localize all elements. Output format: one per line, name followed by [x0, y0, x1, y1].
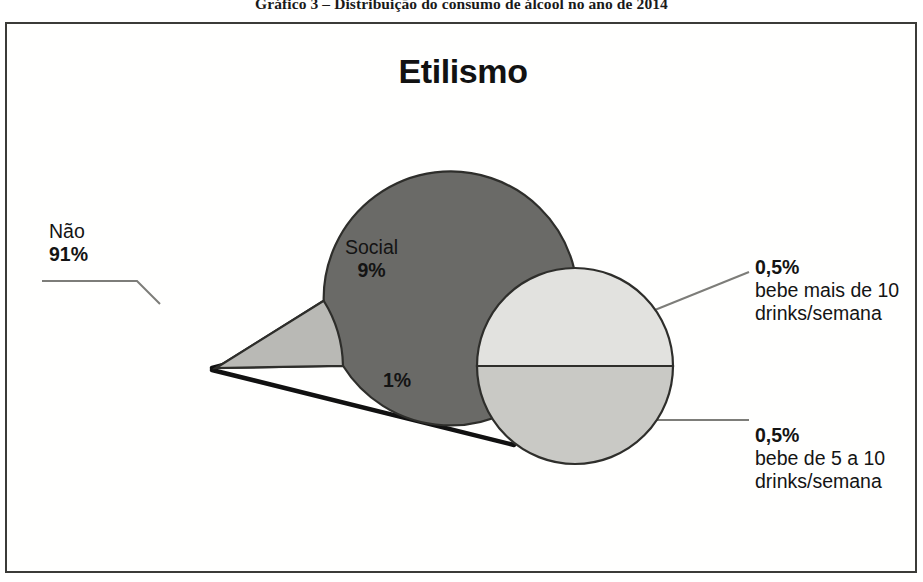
label-callout-percent: 1% [383, 369, 411, 392]
leader-line-nao [42, 281, 160, 304]
label-nao: Não 91% [49, 220, 88, 266]
pie-slice-social [216, 301, 343, 368]
label-moderate-drinker: 0,5% bebe de 5 a 10 drinks/semana [755, 424, 885, 493]
label-moderate-percent: 0,5% [755, 424, 885, 447]
label-nao-name: Não [49, 220, 85, 242]
label-heavy-percent: 0,5% [755, 256, 899, 279]
figure-caption: Gráfico 3 – Distribuição do consumo de á… [0, 0, 923, 13]
label-heavy-desc-line1: bebe mais de 10 [755, 279, 899, 302]
label-social-name: Social [345, 236, 398, 258]
label-heavy-drinker: 0,5% bebe mais de 10 drinks/semana [755, 256, 899, 325]
label-social-percent: 9% [345, 259, 398, 282]
label-social: Social 9% [345, 236, 398, 282]
label-moderate-desc-line2: drinks/semana [755, 470, 885, 493]
subpie-slice-moderate [477, 366, 673, 464]
label-moderate-desc-line1: bebe de 5 a 10 [755, 447, 885, 470]
label-nao-percent: 91% [49, 243, 88, 266]
label-heavy-desc-line2: drinks/semana [755, 302, 899, 325]
chart-frame: Etilismo Não 91% Social 9% 1% 0,5% be [5, 22, 917, 573]
